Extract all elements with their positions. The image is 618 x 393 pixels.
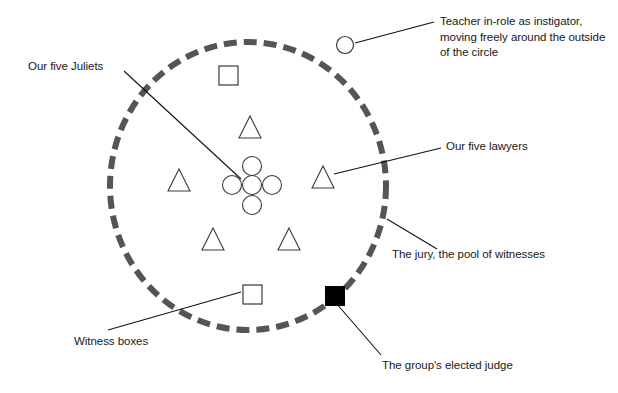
- juliet-circle: [263, 176, 282, 195]
- witness-box: [219, 66, 238, 85]
- judge-leader-line: [336, 303, 381, 355]
- juliet-circle: [243, 196, 262, 215]
- label-teacher: Teacher in-role as instigator, moving fr…: [440, 14, 608, 61]
- lawyer-triangle: [168, 169, 190, 191]
- lawyer-triangle: [239, 116, 261, 138]
- juliet-circle: [223, 176, 242, 195]
- label-juliets: Our five Juliets: [28, 59, 103, 75]
- juliets-circle-cluster: [223, 157, 282, 215]
- diagram-canvas: Teacher in-role as instigator, moving fr…: [0, 0, 618, 393]
- judge-marker-square: [325, 286, 345, 306]
- witness-box-group: [219, 66, 262, 304]
- lawyer-triangle: [278, 228, 300, 250]
- label-witness-boxes: Witness boxes: [74, 334, 148, 350]
- teacher-marker-circle: [337, 37, 354, 54]
- label-lawyers: Our five lawyers: [446, 139, 528, 155]
- lawyer-triangle: [202, 228, 224, 250]
- jury-leader-line: [387, 219, 437, 249]
- juliet-circle: [243, 176, 262, 195]
- label-judge: The group's elected judge: [382, 358, 513, 374]
- teacher-leader-line: [355, 22, 434, 43]
- juliets-leader-line: [124, 71, 241, 179]
- label-jury: The jury, the pool of witnesses: [392, 247, 545, 263]
- lawyers-triangle-group: [168, 116, 334, 250]
- lawyer-triangle: [312, 166, 334, 188]
- witness-box: [243, 285, 262, 304]
- juliet-circle: [243, 157, 262, 176]
